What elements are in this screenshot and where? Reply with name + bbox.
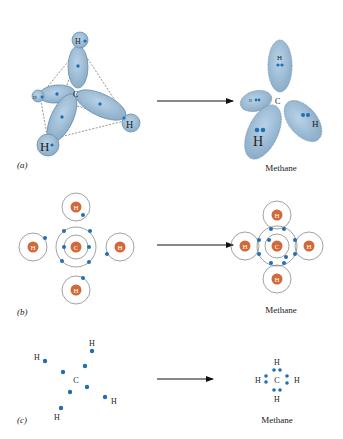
carbon-label: C xyxy=(275,243,280,251)
panel-c: H H C H H C H H H H (c) Methane xyxy=(17,339,300,425)
hydrogen-label: H xyxy=(249,98,252,103)
hydrogen-label: H xyxy=(294,376,300,385)
hydrogen-label: H xyxy=(40,139,49,154)
hydrogen-label: H xyxy=(312,119,319,129)
hydrogen-label: H xyxy=(274,358,280,367)
hydrogen-label: H xyxy=(30,244,35,252)
carbon-label: C xyxy=(275,97,280,106)
hydrogen-label: H xyxy=(111,397,117,406)
hydrogen-label: H xyxy=(255,376,261,385)
panel-label: (a) xyxy=(17,160,28,170)
carbon-label: C xyxy=(74,244,79,252)
hydrogen-label: H xyxy=(89,339,95,348)
carbon-label: C xyxy=(274,376,279,385)
hydrogen-label: H xyxy=(54,413,60,422)
hydrogen-label: H xyxy=(274,212,279,220)
hydrogen-label: H xyxy=(253,134,263,149)
panel-a: H H H H C H H H H C (a) Methane xyxy=(17,32,329,173)
hydrogen-label: H xyxy=(75,37,81,46)
sp3-orbitals xyxy=(38,46,130,146)
product-label: Methane xyxy=(265,163,297,173)
hydrogen-label: H xyxy=(34,353,40,362)
hydrogen-label: H xyxy=(277,54,282,62)
hydrogen-label: H xyxy=(306,243,311,251)
hydrogen-label: H xyxy=(126,119,133,130)
panel-b: C H H H H xyxy=(17,193,323,317)
product-label: Methane xyxy=(265,305,297,315)
hydrogen-label: H xyxy=(242,243,247,251)
hydrogen-label: H xyxy=(33,95,37,100)
hydrogen-label: H xyxy=(73,204,78,212)
panel-label: (c) xyxy=(17,415,27,425)
hydrogen-label: H xyxy=(73,287,78,295)
carbon-label: C xyxy=(73,376,78,385)
hydrogen-label: H xyxy=(274,395,280,404)
methane-bonding-diagram: H H H H C H H H H C (a) Methane xyxy=(0,0,343,439)
panel-label: (b) xyxy=(17,307,28,317)
hydrogen-label: H xyxy=(274,276,279,284)
hydrogen-label: H xyxy=(117,244,122,252)
carbon-label: C xyxy=(73,90,78,99)
product-label: Methane xyxy=(261,415,293,425)
